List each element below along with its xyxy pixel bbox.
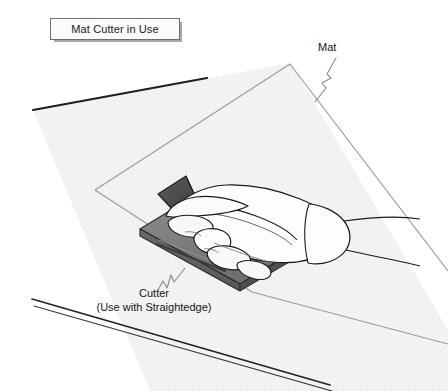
callout-cutter-line-1: Cutter (74, 287, 234, 301)
callout-cutter-line-2: (Use with Straightedge) (74, 301, 234, 315)
figure-canvas: Mat Cutter in Use Mat Cutter (Use with S… (0, 0, 448, 391)
title-box: Mat Cutter in Use (50, 18, 180, 40)
callout-mat-line-1: Mat (318, 41, 336, 55)
mat-cutter-illustration (0, 0, 448, 391)
callout-cutter: Cutter (Use with Straightedge) (74, 287, 234, 315)
callout-mat: Mat (318, 41, 336, 55)
leader-line-mat (315, 58, 336, 102)
title-box-label: Mat Cutter in Use (71, 23, 158, 35)
